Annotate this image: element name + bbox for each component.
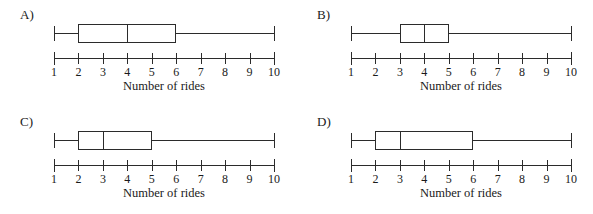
axis-tick-label: 4 [421,66,427,78]
box-iqr [375,131,473,150]
axis-tick [78,53,79,64]
axis-tick [176,160,177,171]
axis-b: 12345678910 [351,50,571,68]
axis-tick [449,160,450,171]
axis-line [54,165,274,166]
axis-a: 12345678910 [54,50,274,68]
axis-tick [424,53,425,64]
axis-caption-d: Number of rides [351,187,571,200]
axis-tick-label: 4 [124,173,130,185]
axis-tick-label: 1 [51,66,57,78]
axis-tick [127,160,128,171]
axis-tick-label: 9 [544,173,550,185]
axis-tick [152,53,153,64]
axis-tick-label: 10 [268,173,280,185]
axis-tick-label: 10 [565,173,577,185]
whisker-lower [54,140,78,141]
whisker-lower [351,33,400,34]
axis-tick [351,159,352,172]
whisker-cap-max [274,26,275,41]
axis-tick-label: 4 [124,66,130,78]
axis-tick [152,160,153,171]
axis-tick-label: 8 [519,173,525,185]
axis-tick [375,53,376,64]
axis-tick [400,53,401,64]
whisker-upper [473,140,571,141]
boxplot-options-grid: A) 12345678910 Number of rides B) 123456… [0,0,593,214]
boxplot-b [351,18,571,50]
plot-area-c: 12345678910 Number of rides [54,107,274,214]
axis-tick [351,52,352,65]
axis-tick [522,53,523,64]
axis-caption-b: Number of rides [351,80,571,93]
median-marker [103,131,104,150]
axis-tick [103,160,104,171]
whisker-cap-max [274,133,275,148]
whisker-cap-min [54,133,55,148]
axis-line [54,58,274,59]
axis-tick-label: 6 [173,66,179,78]
axis-line [351,58,571,59]
panel-option-d: D) 12345678910 Number of rides [297,107,593,214]
plot-area-a: 12345678910 Number of rides [54,0,274,107]
median-marker [127,24,128,43]
axis-tick-label: 10 [565,66,577,78]
axis-tick [250,53,251,64]
axis-tick [103,53,104,64]
axis-tick-label: 9 [247,66,253,78]
axis-tick-label: 3 [100,173,106,185]
axis-tick [473,53,474,64]
axis-tick [522,160,523,171]
axis-tick-label: 1 [51,173,57,185]
axis-tick [498,53,499,64]
axis-tick-label: 2 [75,173,81,185]
axis-tick-label: 2 [372,173,378,185]
median-marker [400,131,401,150]
whisker-cap-min [351,133,352,148]
axis-tick-label: 5 [149,173,155,185]
axis-tick-label: 2 [372,66,378,78]
axis-tick [201,53,202,64]
axis-tick-label: 6 [470,66,476,78]
axis-tick-label: 7 [495,66,501,78]
axis-tick [274,159,275,172]
axis-d: 12345678910 [351,157,571,175]
axis-tick [54,159,55,172]
axis-caption-a: Number of rides [54,80,274,93]
whisker-lower [351,140,375,141]
axis-tick [78,160,79,171]
axis-tick [571,52,572,65]
axis-tick [375,160,376,171]
axis-tick-label: 1 [348,66,354,78]
axis-tick [547,53,548,64]
axis-tick [225,160,226,171]
axis-tick [176,53,177,64]
boxplot-d [351,125,571,157]
panel-letter-c: C) [20,115,33,128]
axis-tick-label: 8 [519,66,525,78]
axis-tick [449,53,450,64]
axis-tick-label: 7 [495,173,501,185]
axis-tick-label: 1 [348,173,354,185]
axis-tick [127,53,128,64]
axis-tick-label: 3 [397,66,403,78]
axis-tick-label: 8 [222,66,228,78]
plot-area-d: 12345678910 Number of rides [351,107,571,214]
boxplot-c [54,125,274,157]
axis-tick-label: 7 [198,66,204,78]
axis-tick-label: 9 [544,66,550,78]
plot-area-b: 12345678910 Number of rides [351,0,571,107]
whisker-upper [449,33,571,34]
axis-tick [547,160,548,171]
axis-c: 12345678910 [54,157,274,175]
boxplot-a [54,18,274,50]
axis-tick-label: 6 [173,173,179,185]
axis-tick-label: 3 [397,173,403,185]
panel-letter-b: B) [317,8,330,21]
whisker-cap-min [351,26,352,41]
axis-tick-label: 9 [247,173,253,185]
axis-tick [225,53,226,64]
axis-tick-label: 7 [198,173,204,185]
whisker-upper [176,33,274,34]
axis-tick-label: 10 [268,66,280,78]
